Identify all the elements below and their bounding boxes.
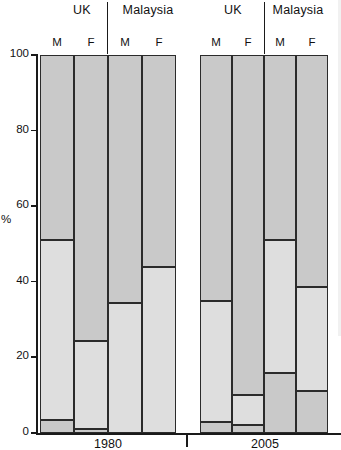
sex-label-1980-malaysia-f: F [142,36,176,48]
sex-label-2005-malaysia-f: F [296,36,328,48]
bar-segment-high [200,55,232,301]
bar-segment-mid [296,287,328,391]
year-label-1980: 1980 [75,437,141,450]
bar-segment-low [264,373,296,433]
x-axis-line [36,433,341,435]
y-tick-60 [31,205,36,207]
bar-segment-high [74,55,108,341]
y-tick-label-60: 60 [0,198,29,210]
bar-segment-high [264,55,296,240]
bar-segment-high [142,55,176,267]
year-group-separator-tick [186,434,188,447]
bar-1980-malaysia-f[interactable] [142,55,176,433]
bar-segment-mid [200,301,232,422]
y-tick-80 [31,130,36,132]
sex-label-1980-uk-f: F [74,36,108,48]
y-tick-20 [31,356,36,358]
y-tick-label-100: 100 [0,47,29,59]
bar-segment-mid [40,240,74,420]
y-tick-100 [31,54,36,56]
group-header-malaysia-1980: Malaysia [113,3,183,17]
bar-2005-uk-m[interactable] [200,55,232,433]
bar-2005-malaysia-m[interactable] [264,55,296,433]
stacked-bar-chart: UK Malaysia UK Malaysia M F M F M F M F … [0,0,341,450]
group-header-uk-1980: UK [52,3,112,17]
bar-segment-high [108,55,142,303]
bar-segment-low [74,429,108,433]
bar-2005-uk-f[interactable] [232,55,264,433]
bar-1980-uk-m[interactable] [40,55,74,433]
sex-label-1980-malaysia-m: M [108,36,142,48]
bar-1980-malaysia-m[interactable] [108,55,142,433]
y-axis-title: % [1,213,11,225]
group-header-malaysia-2005: Malaysia [263,3,333,17]
sex-label-2005-malaysia-m: M [264,36,296,48]
y-tick-label-0: 0 [0,425,29,437]
bar-segment-mid [232,395,264,425]
y-tick-label-20: 20 [0,349,29,361]
bar-segment-low [40,420,74,433]
y-tick-40 [31,281,36,283]
bar-segment-high [232,55,264,395]
year-label-2005: 2005 [232,437,298,450]
bar-1980-uk-f[interactable] [74,55,108,433]
bar-segment-low [232,425,264,433]
bar-segment-mid [74,341,108,429]
bar-segment-low [200,422,232,433]
sex-label-2005-uk-f: F [232,36,264,48]
bar-segment-mid [264,240,296,372]
y-tick-label-40: 40 [0,274,29,286]
y-axis-line [36,54,38,434]
bar-segment-low [296,391,328,433]
bar-segment-mid [108,303,142,433]
y-tick-label-80: 80 [0,123,29,135]
sex-label-1980-uk-m: M [40,36,74,48]
bar-segment-high [40,55,74,240]
bar-segment-high [296,55,328,287]
bar-2005-malaysia-f[interactable] [296,55,328,433]
bar-segment-mid [142,267,176,433]
group-header-uk-2005: UK [203,3,263,17]
sex-label-2005-uk-m: M [200,36,232,48]
